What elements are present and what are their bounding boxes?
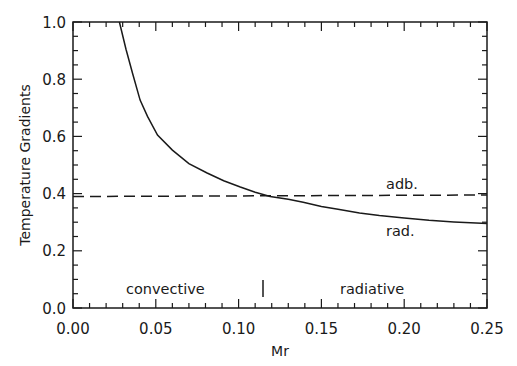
series-adb-dashed-line [73,195,487,197]
axis-ticks [73,22,487,308]
series-rad-solid-line [119,22,487,224]
x-tick-label: 0.20 [387,320,420,338]
annotation-rad: rad. [386,223,415,239]
x-tick-label: 0.10 [222,320,255,338]
plot-frame [73,22,487,308]
y-axis-title: Temperature Gradients [17,84,33,246]
x-tick-label: 0.05 [139,320,172,338]
y-tick-label: 1.0 [42,14,66,32]
x-tick-labels: 0.000.050.100.150.200.25 [56,320,503,338]
x-tick-label: 0.25 [470,320,503,338]
annotation-adb: adb. [386,176,418,192]
x-tick-label: 0.00 [56,320,89,338]
annotation-convective: convective [126,281,205,297]
chart: 0.000.050.100.150.200.25 0.00.20.40.60.8… [0,0,517,366]
y-tick-labels: 0.00.20.40.60.81.0 [42,14,66,318]
y-tick-label: 0.0 [42,300,66,318]
x-tick-label: 0.15 [305,320,338,338]
y-tick-label: 0.2 [42,242,66,260]
y-tick-label: 0.6 [42,128,66,146]
y-tick-label: 0.8 [42,71,66,89]
y-tick-label: 0.4 [42,185,66,203]
annotation-radiative: radiative [340,281,404,297]
x-axis-title: Mr [271,343,289,359]
